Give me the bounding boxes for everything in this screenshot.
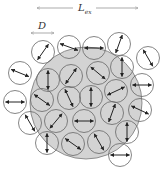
length-label-text: L — [78, 2, 85, 13]
particle — [137, 47, 160, 70]
double-arrow-icon — [38, 44, 49, 60]
particle — [108, 33, 131, 56]
double-arrow-icon — [11, 69, 29, 76]
double-arrow-icon — [143, 50, 153, 66]
particle — [9, 62, 32, 85]
diameter-label-text: D — [38, 20, 46, 31]
double-arrow-icon — [116, 35, 122, 53]
particle — [32, 41, 55, 64]
diameter-label: D — [38, 21, 46, 31]
particle-diagram — [0, 0, 164, 176]
length-label: Lex — [78, 3, 92, 15]
length-label-subscript: ex — [85, 8, 92, 15]
particle — [4, 91, 27, 114]
particle — [131, 74, 154, 97]
